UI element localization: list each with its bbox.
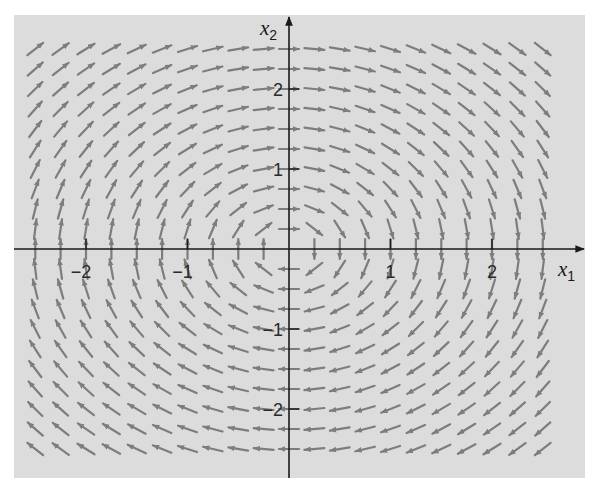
y-tick-label: 2 [273, 80, 283, 100]
x-tick-label: 2 [487, 262, 497, 282]
x-tick-label: −1 [172, 262, 193, 282]
x-tick-label: 1 [385, 262, 395, 282]
direction-field-plot: −2−112 −2−112 x1 x2 [0, 0, 603, 485]
x-tick-label: −2 [71, 262, 92, 282]
y-tick-label: −2 [262, 400, 283, 420]
y-tick-label: 1 [273, 160, 283, 180]
y-tick-label: −1 [262, 320, 283, 340]
